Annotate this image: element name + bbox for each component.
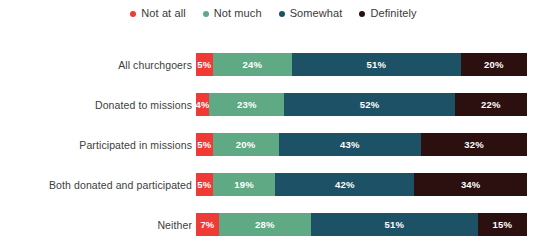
legend-dot-icon [203,11,209,17]
bar-segment-value: 23% [237,100,257,110]
bar-segment-value: 4% [196,100,209,110]
stacked-bar: 5%20%43%32% [196,133,527,156]
bar-segment-value: 15% [493,220,513,230]
bar-segment-value: 22% [481,100,501,110]
bar-segment-value: 5% [197,180,211,190]
chart-plot-area: All churchgoers5%24%51%20%Donated to mis… [0,45,547,245]
bar-segment-value: 51% [384,220,404,230]
bar-segment-value: 7% [200,220,214,230]
chart-row: Both donated and participated5%19%42%34% [0,165,547,205]
chart-row: All churchgoers5%24%51%20% [0,45,547,85]
bar-segment-value: 20% [484,60,504,70]
stacked-bar: 5%24%51%20% [196,53,527,76]
stacked-bar: 4%23%52%22% [196,93,527,116]
bar-segment[interactable]: 42% [275,173,414,196]
stacked-bar-chart: Not at allNot muchSomewhatDefinitely All… [0,0,547,250]
category-label: Neither [157,205,192,245]
bar-segment[interactable]: 19% [213,173,276,196]
bar-segment[interactable]: 5% [196,133,213,156]
bar-segment[interactable]: 20% [213,133,279,156]
bar-segment[interactable]: 51% [311,213,478,236]
legend-item-label: Not much [214,8,262,19]
bar-segment-value: 20% [236,140,256,150]
bar-segment-value: 32% [464,140,484,150]
bar-segment[interactable]: 7% [196,213,219,236]
bar-segment-value: 51% [367,60,387,70]
legend-item-label: Definitely [370,8,416,19]
legend-dot-icon [279,11,285,17]
category-label: Participated in missions [79,125,192,165]
stacked-bar: 5%19%42%34% [196,173,527,196]
bar-segment[interactable]: 15% [478,213,527,236]
bar-segment[interactable]: 43% [279,133,421,156]
bar-segment[interactable]: 4% [196,93,209,116]
bar-segment-value: 5% [197,140,211,150]
bar-segment[interactable]: 24% [213,53,292,76]
bar-segment[interactable]: 20% [461,53,527,76]
chart-row: Donated to missions4%23%52%22% [0,85,547,125]
chart-row: Participated in missions5%20%43%32% [0,125,547,165]
legend-item[interactable]: Not much [203,8,262,19]
legend-item-label: Not at all [141,8,185,19]
bar-segment-value: 52% [360,100,380,110]
legend-item[interactable]: Definitely [359,8,416,19]
bar-segment-value: 42% [335,180,355,190]
bar-segment-value: 24% [242,60,262,70]
bar-segment-value: 19% [234,180,254,190]
legend-dot-icon [359,11,365,17]
bar-segment-value: 5% [197,60,211,70]
bar-segment[interactable]: 5% [196,53,213,76]
chart-legend: Not at allNot muchSomewhatDefinitely [0,8,547,19]
bar-segment-value: 28% [255,220,275,230]
legend-item[interactable]: Somewhat [279,8,343,19]
bar-segment-value: 43% [340,140,360,150]
chart-row: Neither7%28%51%15% [0,205,547,245]
stacked-bar: 7%28%51%15% [196,213,527,236]
legend-item-label: Somewhat [290,8,343,19]
legend-item[interactable]: Not at all [130,8,185,19]
bar-segment[interactable]: 28% [219,213,311,236]
bar-segment[interactable]: 34% [414,173,527,196]
bar-segment[interactable]: 32% [421,133,527,156]
bar-segment[interactable]: 23% [209,93,284,116]
bar-segment-value: 34% [461,180,481,190]
category-label: Donated to missions [95,85,192,125]
bar-segment[interactable]: 5% [196,173,213,196]
bar-segment[interactable]: 51% [292,53,461,76]
bar-segment[interactable]: 52% [284,93,454,116]
bar-segment[interactable]: 22% [455,93,527,116]
category-label: All churchgoers [118,45,192,85]
legend-dot-icon [130,11,136,17]
category-label: Both donated and participated [49,165,192,205]
